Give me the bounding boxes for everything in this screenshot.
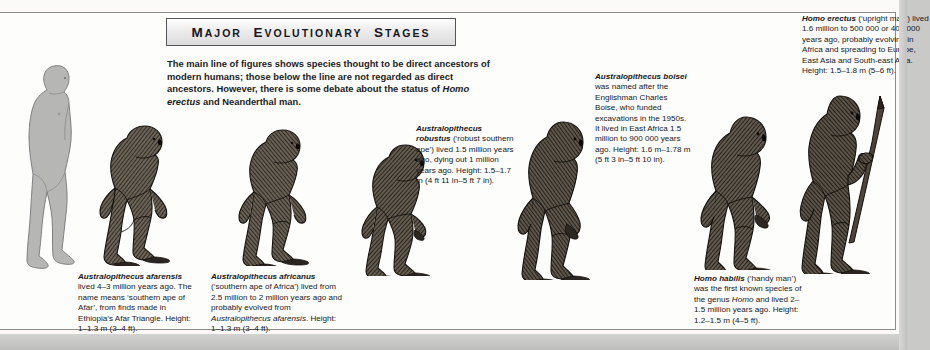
figure-australopithecus-afarensis [88,118,184,266]
page-title-banner: MAJOR EVOLUTIONARY STAGES [166,18,456,46]
page-title: MAJOR EVOLUTIONARY STAGES [192,25,431,40]
scan-edge-bottom [0,334,907,350]
figure-australopithecus-boisei [510,116,602,280]
caption-australopithecus-afarensis: Australopithecus afarensis lived 4–3 mil… [78,272,196,334]
intro-paragraph: The main line of figures shows species t… [167,58,492,108]
caption-species-africanus: Australopithecus africanus [211,272,315,281]
caption-text-boisei: was named after the Englishman Charles B… [595,82,690,164]
caption-species-boisei: Australopithecus boisei [595,72,687,81]
caption-australopithecus-africanus: Australopithecus africanus (‘southern ap… [211,272,344,334]
figure-homo-habilis [692,112,784,270]
figure-australopithecus-africanus [228,124,324,266]
figure-modern-human-silhouette [14,58,84,283]
caption-species-afarensis: Australopithecus afarensis [78,272,182,281]
caption-australopithecus-robustus: Australopithecus robustus (‘robust south… [416,124,516,186]
caption-homo-erectus: Homo erectus (‘upright man’) lived 1.6 m… [802,14,930,76]
caption-text-erectus: (‘upright man’) lived 1.6 million to 500… [802,14,929,75]
caption-species-habilis: Homo habilis [694,274,745,283]
caption-species-erectus: Homo erectus [802,14,856,23]
caption-text-afarensis: lived 4–3 million years ago. The name me… [78,282,192,333]
caption-australopithecus-boisei: Australopithecus boisei was named after … [595,72,691,166]
scan-edge-right [899,0,907,350]
caption-homo-habilis: Homo habilis (‘handy man’) was the first… [694,274,804,326]
figure-homo-erectus [796,92,896,274]
